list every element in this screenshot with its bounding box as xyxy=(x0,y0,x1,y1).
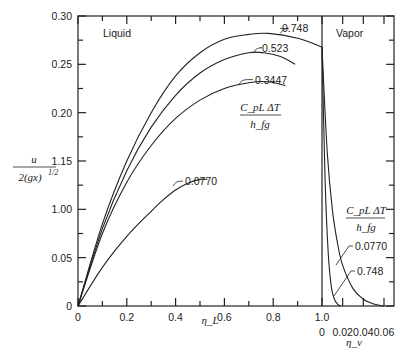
tick-labels: 00.051.001.150.200.250.3000.20.40.60.81.… xyxy=(52,10,395,338)
x-tick-label-liquid: 0 xyxy=(75,311,81,323)
curve-label-vapor: 0.0770 xyxy=(355,240,387,252)
plot-border xyxy=(78,16,394,306)
x-tick-label-liquid: 0.4 xyxy=(168,311,183,323)
curve-label-liquid: 0.523 xyxy=(262,42,288,54)
curve-vapor-0.748 xyxy=(322,47,341,306)
y-tick-label: 0.25 xyxy=(52,58,73,70)
region-label-vapor: Vapor xyxy=(336,27,364,39)
curves xyxy=(78,28,384,306)
x-tick-label-liquid: 0.2 xyxy=(119,311,134,323)
curve-label-liquid: 0.748 xyxy=(282,22,308,34)
ylabel-denominator: 2(gx) xyxy=(18,171,42,184)
y-tick-label: 1.00 xyxy=(52,203,73,215)
ylabel-exponent: 1/2 xyxy=(48,168,58,177)
param-denominator-vapor: h_fg xyxy=(356,221,376,233)
leader-line-vapor xyxy=(334,271,355,296)
plot-frame xyxy=(78,16,394,306)
y-tick-label: 0.20 xyxy=(52,107,73,119)
x-tick-label-liquid: 0.8 xyxy=(266,311,281,323)
y-tick-label: 1.15 xyxy=(52,155,73,167)
xlabel-vapor: η_v xyxy=(346,336,362,348)
curve-label-liquid: 0.0770 xyxy=(185,175,217,187)
leader-line xyxy=(173,181,183,186)
ylabel-numerator: u xyxy=(31,153,37,165)
region-label-liquid: Liquid xyxy=(103,27,131,39)
axis-ticks xyxy=(78,16,394,306)
y-tick-label: 0.05 xyxy=(52,252,73,264)
y-tick-label: 0.30 xyxy=(52,10,73,22)
xlabel-liquid: η_L xyxy=(201,314,218,326)
param-numerator-vapor: C_pL ΔT xyxy=(346,204,386,216)
curve-label-vapor: 0.748 xyxy=(357,265,383,277)
y-tick-label: 0 xyxy=(66,300,72,312)
param-numerator: C_pL ΔT xyxy=(240,101,280,113)
param-denominator: h_fg xyxy=(250,118,270,130)
x-tick-label-liquid: 1.0 xyxy=(315,311,330,323)
parameter-label-vapor: C_pL ΔT h_fg xyxy=(346,204,387,233)
x-tick-label-vapor: 0.06 xyxy=(374,326,395,338)
curve-label-liquid: 0.3447 xyxy=(255,74,287,86)
x-tick-label-liquid: 0.6 xyxy=(217,311,232,323)
chart: 00.051.001.150.200.250.3000.20.40.60.81.… xyxy=(0,0,411,358)
parameter-label-liquid: C_pL ΔT h_fg xyxy=(240,101,281,130)
x-tick-label-vapor: 0 xyxy=(319,326,325,338)
